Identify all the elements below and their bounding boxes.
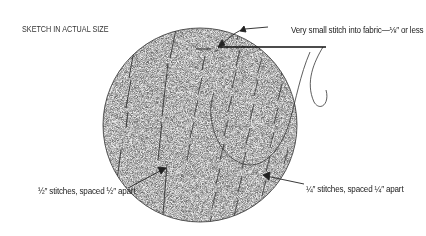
annotation-small-stitch: Very small stitch into fabric—⅛″ or less (291, 24, 423, 35)
annotation-quarter-inch-stitches: ¼″ stitches, spaced ¼″ apart (306, 183, 403, 194)
annotation-half-inch-stitches: ½″ stitches, spaced ½″ apart (38, 185, 135, 196)
stitch-diagram (0, 0, 426, 236)
diagram-title: SKETCH IN ACTUAL SIZE (22, 24, 108, 34)
